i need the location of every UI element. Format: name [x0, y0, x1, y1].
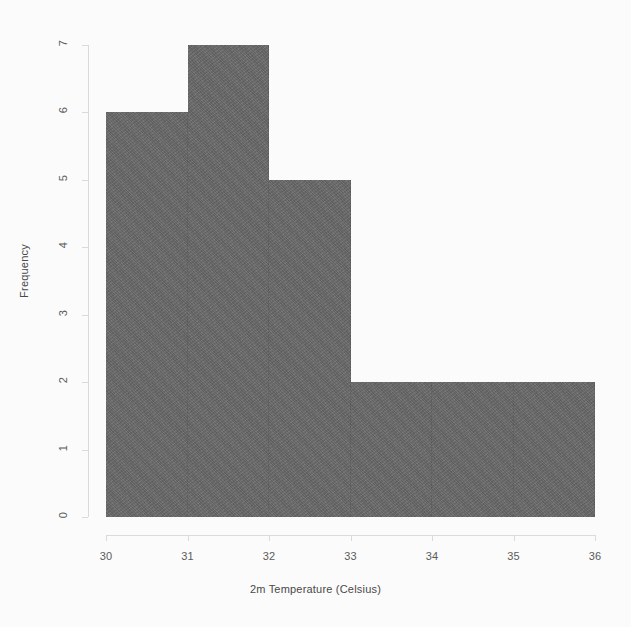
- x-axis-title: 2m Temperature (Celsius): [0, 583, 631, 595]
- y-axis-tick: [82, 247, 88, 248]
- y-axis-tick-label: 7: [57, 32, 69, 54]
- y-axis-tick: [82, 112, 88, 113]
- x-axis-tick-label: 33: [331, 550, 371, 562]
- plot-area: [106, 45, 595, 517]
- y-axis-tick: [82, 517, 88, 518]
- y-axis-tick-label: 0: [57, 504, 69, 526]
- y-axis-tick: [82, 450, 88, 451]
- x-axis-tick-label: 36: [575, 550, 615, 562]
- y-axis-tick: [82, 315, 88, 316]
- x-axis-tick-label: 32: [249, 550, 289, 562]
- y-axis-tick: [82, 180, 88, 181]
- y-axis-tick-label: 6: [57, 99, 69, 121]
- y-axis-title: Frequency: [18, 221, 30, 321]
- y-axis-tick: [82, 45, 88, 46]
- x-axis-tick: [514, 535, 515, 541]
- x-axis-tick-label: 31: [168, 550, 208, 562]
- y-axis-tick-label: 2: [57, 369, 69, 391]
- y-axis-tick-label: 4: [57, 234, 69, 256]
- histogram-bar: [106, 112, 188, 517]
- y-axis-tick-label: 5: [57, 167, 69, 189]
- x-axis-tick: [351, 535, 352, 541]
- x-axis-tick: [269, 535, 270, 541]
- histogram-bar: [514, 382, 596, 517]
- y-axis-tick-label: 1: [57, 437, 69, 459]
- x-axis-tick-label: 34: [412, 550, 452, 562]
- histogram-figure: 01234567 30313233343536 2m Temperature (…: [0, 0, 631, 627]
- histogram-bar: [188, 45, 270, 517]
- y-axis-tick-label: 3: [57, 302, 69, 324]
- x-axis-tick: [188, 535, 189, 541]
- y-axis-line: [88, 45, 89, 517]
- histogram-bar: [432, 382, 514, 517]
- x-axis-tick: [106, 535, 107, 541]
- histogram-bar: [269, 180, 351, 517]
- y-axis-tick: [82, 382, 88, 383]
- x-axis-tick: [432, 535, 433, 541]
- x-axis-tick: [595, 535, 596, 541]
- x-axis-tick-label: 35: [494, 550, 534, 562]
- x-axis-tick-label: 30: [86, 550, 126, 562]
- histogram-bar: [351, 382, 433, 517]
